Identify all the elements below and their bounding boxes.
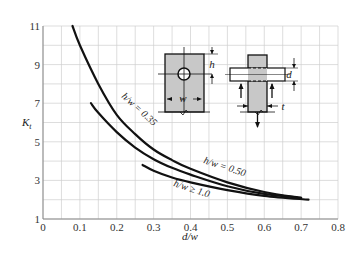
d-label: d [286, 68, 292, 80]
x-tick-label: 0.2 [110, 221, 124, 233]
y-tick-label: 5 [35, 136, 41, 148]
x-tick-label: 0.5 [221, 221, 235, 233]
y-tick-label: 1 [35, 213, 41, 225]
axes: 00.10.20.30.40.50.60.70.81357911 [29, 20, 345, 233]
y-tick-label: 3 [35, 174, 41, 186]
stress-concentration-chart: 00.10.20.30.40.50.60.70.81357911 h w [0, 0, 364, 259]
x-tick-label: 0.6 [257, 221, 271, 233]
y-tick-label: 9 [35, 59, 41, 71]
t-label: t [281, 100, 285, 112]
x-tick-label: 0 [40, 221, 46, 233]
pin-joint-diagram: d t [225, 55, 298, 128]
h-label: h [209, 58, 215, 70]
x-tick-label: 0.7 [294, 221, 308, 233]
y-axis-label: Kt [21, 116, 32, 131]
y-tick-label: 11 [29, 20, 40, 32]
x-tick-label: 0.3 [147, 221, 161, 233]
x-tick-label: 0.8 [331, 221, 345, 233]
x-tick-label: 0.1 [73, 221, 87, 233]
y-tick-label: 7 [35, 97, 41, 109]
x-axis-label: d/w [182, 230, 199, 242]
w-label: w [179, 92, 187, 104]
